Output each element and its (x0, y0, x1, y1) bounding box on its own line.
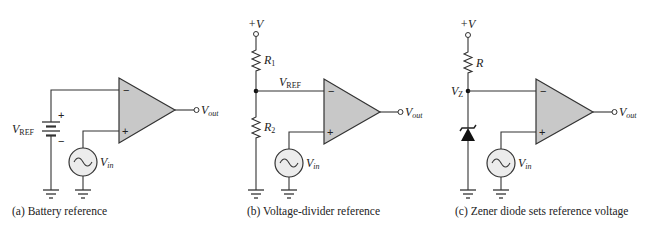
noninverting-input-label: + (539, 126, 545, 138)
vin-label: Vin (518, 156, 532, 171)
ground-icon (43, 190, 59, 198)
divider-wire-with-resistors (252, 37, 260, 191)
inverting-input-label: − (328, 85, 334, 97)
vref-label: VREF (12, 122, 35, 137)
output-terminal-icon (398, 110, 403, 115)
r-label: R (475, 56, 484, 70)
ground-icon (460, 190, 476, 198)
noninverting-input-label: + (122, 125, 128, 137)
supply-terminal-icon (254, 32, 259, 37)
output-terminal-icon (194, 108, 199, 113)
inverting-input-label: − (123, 84, 129, 96)
wire-with-resistor-r (464, 38, 472, 129)
wire-vin-to-noninverting (83, 131, 119, 148)
comparator-reference-diagram: + − VREF Vin − + Vout (a) Battery refere… (0, 0, 649, 240)
noninverting-input-label: + (327, 126, 333, 138)
wire-vin-to-noninverting (289, 132, 324, 149)
ground-icon (281, 190, 297, 198)
battery-icon (42, 122, 60, 136)
supply-label: +V (248, 17, 265, 31)
inverting-input-label: − (540, 85, 546, 97)
battery-minus-label: − (58, 135, 64, 147)
supply-terminal-icon (466, 33, 471, 38)
vout-label: Vout (619, 105, 637, 120)
vout-label: Vout (405, 105, 423, 120)
battery-plus-label: + (58, 109, 64, 121)
vref-label: VREF (279, 75, 302, 90)
vin-label: Vin (306, 156, 320, 171)
vin-label: Vin (100, 155, 114, 170)
vout-label: Vout (201, 103, 219, 118)
r1-label: R1 (263, 53, 275, 68)
panel-b-voltage-divider-reference: +V R1 R2 VREF Vin − + Vout (b) Voltage-d… (247, 17, 423, 218)
output-terminal-icon (612, 110, 617, 115)
wire-vin-to-noninverting (501, 132, 536, 149)
caption-a: (a) Battery reference (12, 205, 107, 218)
caption-b: (b) Voltage-divider reference (247, 205, 380, 218)
ground-icon (75, 190, 91, 198)
caption-c: (c) Zener diode sets reference voltage (455, 205, 628, 218)
ground-icon (493, 190, 509, 198)
panel-a-battery-reference: + − VREF Vin − + Vout (a) Battery refere… (12, 78, 219, 218)
supply-label: +V (460, 17, 477, 31)
vz-label: VZ (451, 84, 463, 99)
zener-diode-icon (460, 125, 476, 141)
panel-c-zener-reference: +V R VZ Vin − + Vout (451, 17, 637, 218)
r2-label: R2 (263, 120, 275, 135)
ground-icon (248, 190, 264, 198)
